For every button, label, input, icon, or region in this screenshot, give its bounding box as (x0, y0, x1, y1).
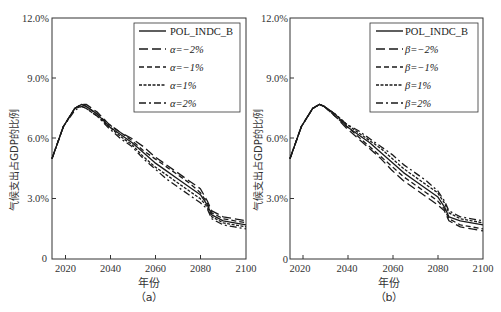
series-line (52, 106, 246, 226)
series-line (52, 104, 246, 224)
x-tick-label: 2020 (290, 263, 311, 274)
legend-label: β=2% (404, 98, 432, 109)
x-tick-label: 2060 (383, 263, 404, 274)
series-line (290, 104, 483, 222)
series-line (52, 104, 246, 220)
x-tick-label: 2100 (236, 263, 257, 274)
y-tick-label: 12.0% (22, 13, 49, 24)
y-tick-label: 3.0% (27, 193, 49, 204)
x-axis-b: 2020 2040 2060 2080 2100 (290, 255, 494, 274)
y-tick-label: 6.0% (266, 133, 288, 144)
y-tick-label: 9.0% (27, 73, 49, 84)
panel-b: 0 3.0% 6.0% 9.0% 12.0% 2020 2040 2060 20… (252, 13, 494, 304)
y-tick-label: 6.0% (27, 133, 49, 144)
series-line (52, 106, 246, 228)
legend-label: α=1% (170, 80, 197, 91)
x-axis-label: 年份 (378, 276, 400, 290)
series-line (290, 104, 483, 220)
legend-label: β=−2% (404, 44, 439, 55)
x-axis-a: 2020 2040 2060 2080 2100 (55, 255, 257, 274)
x-tick-label: 2100 (473, 263, 494, 274)
x-tick-label: 2040 (100, 263, 121, 274)
legend-label: POL_INDC_B (170, 26, 233, 37)
legend-a: POL_INDC_B α=−2% α=−1% α=1% α=2% (134, 23, 240, 112)
series-lines-a (52, 104, 246, 228)
legend-label: α=−1% (170, 62, 204, 73)
panel-caption: （b） (375, 291, 404, 304)
legend-label: POL_INDC_B (405, 26, 468, 37)
y-axis-a: 0 3.0% 6.0% 9.0% 12.0% (22, 13, 56, 264)
legend-label: α=2% (170, 98, 197, 109)
y-tick-label: 3.0% (266, 193, 288, 204)
y-tick-label: 12.0% (261, 13, 288, 24)
x-tick-label: 2040 (337, 263, 358, 274)
figure: 0 3.0% 6.0% 9.0% 12.0% 2020 2040 2060 20… (0, 0, 501, 312)
x-tick-label: 2060 (145, 263, 166, 274)
y-axis-b: 0 3.0% 6.0% 9.0% 12.0% (261, 13, 294, 265)
legend-b: POL_INDC_B β=−2% β=−1% β=1% β=2% (370, 23, 478, 112)
series-line (290, 104, 483, 230)
x-axis-label: 年份 (138, 276, 160, 290)
y-tick-label: 0 (283, 254, 288, 265)
x-tick-label: 2020 (55, 263, 76, 274)
x-tick-label: 2080 (190, 263, 211, 274)
legend-label: β=−1% (404, 62, 439, 73)
y-tick-label: 0 (42, 253, 47, 264)
legend-label: β=1% (404, 80, 432, 91)
series-lines-b (290, 104, 483, 230)
panel-caption: （a） (135, 291, 164, 304)
series-line (290, 104, 483, 224)
y-tick-label: 9.0% (266, 73, 288, 84)
y-axis-label: 气候支出占GDP的比例 (8, 109, 20, 210)
panel-a: 0 3.0% 6.0% 9.0% 12.0% 2020 2040 2060 20… (8, 13, 257, 304)
legend-label: α=−2% (170, 44, 204, 55)
y-axis-label: 气候支出占GDP的比例 (252, 109, 264, 210)
series-line (290, 104, 483, 228)
x-tick-label: 2080 (428, 263, 449, 274)
